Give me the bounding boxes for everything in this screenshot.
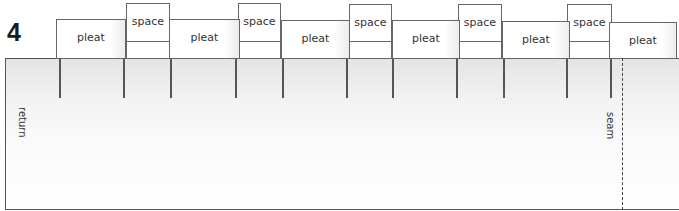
space-box: space [567,4,612,59]
pleat-layout-diagram: 4 spacespacespacespacespacepleatpleatple… [0,0,679,211]
fold-line [235,58,237,98]
fold-line [392,58,394,98]
space-divider [350,41,391,42]
space-label: space [239,15,280,28]
space-label: space [459,16,501,29]
space-label: space [350,16,391,29]
fold-line [566,58,568,98]
space-divider [239,41,280,42]
space-box: space [126,3,170,59]
space-divider [568,41,611,42]
pleat-label: pleat [57,31,125,44]
pleat-box: pleat [56,19,126,59]
fold-line [456,58,458,98]
fold-line [503,58,505,98]
space-divider [127,41,169,42]
pleat-label: pleat [393,32,459,45]
pleat-box: pleat [281,20,350,59]
seam-dashed-line [622,58,623,210]
pleat-label: pleat [610,34,676,47]
step-number: 4 [7,18,21,46]
pleat-box: pleat [169,19,240,59]
pleat-label: pleat [170,31,239,44]
space-box: space [238,3,281,59]
fold-line [123,58,125,98]
pleat-box: pleat [609,22,677,59]
fold-line [282,58,284,98]
space-label: space [568,16,611,29]
seam-label: seam [605,112,616,139]
pleat-label: pleat [282,32,349,45]
pleat-box: pleat [502,21,570,59]
pleat-box: pleat [392,20,460,59]
fold-line [170,58,172,98]
fold-line [59,58,61,98]
pleat-label: pleat [503,33,569,46]
space-box: space [458,4,502,59]
space-divider [459,41,501,42]
space-box: space [349,4,392,59]
space-label: space [127,15,169,28]
fold-line [346,58,348,98]
fabric-panel [5,58,679,210]
return-label: return [17,107,28,138]
fold-line [610,58,612,98]
